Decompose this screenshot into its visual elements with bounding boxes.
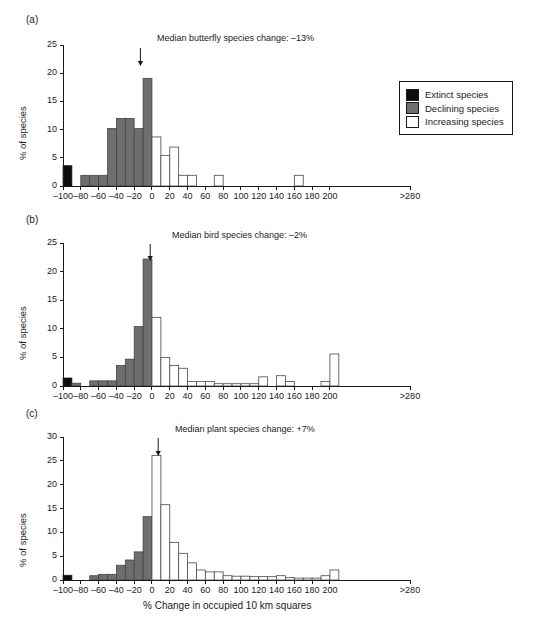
histogram-bar: [81, 175, 90, 186]
histogram-bar: [330, 354, 339, 386]
y-tick-label: 5: [35, 351, 57, 361]
x-tick-label: 200: [310, 585, 350, 595]
histogram-bar: [63, 166, 72, 186]
legend-swatch-extinct-icon: [406, 89, 419, 101]
histogram-bar: [152, 137, 161, 186]
legend-swatch-declining-icon: [406, 102, 419, 114]
histogram-bar: [63, 575, 72, 580]
histogram-bar: [294, 175, 303, 186]
y-tick-label: 0: [35, 574, 57, 584]
legend-item-declining: Declining species: [406, 102, 504, 114]
histogram-bar: [152, 456, 161, 580]
histogram-bar: [63, 378, 72, 386]
y-tick-label: 25: [35, 237, 57, 247]
histogram-bar: [143, 78, 152, 186]
histogram-bar: [205, 381, 214, 386]
y-tick-label: 15: [35, 294, 57, 304]
legend-swatch-increasing-icon: [406, 116, 419, 128]
histogram-bar: [285, 381, 294, 386]
histogram-bar: [259, 377, 268, 386]
histogram-bar: [134, 552, 143, 580]
histogram-bar: [107, 574, 116, 580]
panel-c: (c) Median plant species change: +7% % o…: [0, 404, 554, 626]
histogram-bar: [205, 572, 214, 580]
panel-b: (b) Median bird species change: –2% % of…: [0, 208, 554, 404]
histogram-bar: [116, 565, 125, 580]
histogram-bar: [134, 128, 143, 186]
median-arrow-head-icon: [138, 61, 143, 66]
histogram-bar: [99, 175, 108, 186]
histogram-bar: [277, 376, 286, 386]
histogram-bar: [196, 570, 205, 580]
y-tick-label: 0: [35, 380, 57, 390]
histogram-bar: [321, 576, 330, 580]
histogram-bar: [134, 327, 143, 386]
histogram-bar: [125, 118, 134, 186]
histogram-bar: [170, 365, 179, 386]
histogram-bar: [259, 577, 268, 580]
y-tick-label: 5: [35, 550, 57, 560]
histogram-bar: [107, 128, 116, 186]
histogram-bar: [90, 175, 99, 186]
histogram-bar: [161, 156, 170, 186]
histogram-bar: [179, 175, 188, 186]
y-tick-label: 20: [35, 266, 57, 276]
histogram-bar: [90, 381, 99, 386]
histogram-bar: [125, 560, 134, 580]
histogram-bar: [116, 118, 125, 186]
histogram-bar: [179, 553, 188, 580]
histogram-bar: [232, 576, 241, 580]
panel-c-plot: 051015202530–100–80–60–40–20020406080100…: [0, 404, 554, 626]
histogram-bar: [321, 381, 330, 386]
y-tick-label: 25: [35, 39, 57, 49]
x-tick-label: >280: [390, 391, 430, 401]
y-tick-label: 5: [35, 152, 57, 162]
histogram-bar: [250, 577, 259, 580]
histogram-bar: [214, 572, 223, 580]
y-tick-label: 10: [35, 124, 57, 134]
histogram-bar: [196, 381, 205, 386]
histogram-bar: [125, 359, 134, 386]
histogram-bar: [223, 576, 232, 580]
x-tick-label: >280: [390, 191, 430, 201]
axis-lines: [63, 243, 410, 386]
x-tick-label: 200: [310, 391, 350, 401]
histogram-bar: [152, 317, 161, 386]
histogram-bar: [143, 517, 152, 580]
histogram-bar: [107, 381, 116, 386]
figure-root: (a) Median butterfly species change: –13…: [0, 0, 554, 626]
histogram-bar: [214, 175, 223, 186]
histogram-bar: [161, 357, 170, 386]
y-tick-label: 10: [35, 526, 57, 536]
histogram-bar: [116, 365, 125, 386]
histogram-bar: [277, 576, 286, 580]
histogram-bar: [330, 570, 339, 580]
x-tick-label: >280: [390, 585, 430, 595]
histogram-bar: [99, 381, 108, 386]
legend: Extinct species Declining species Increa…: [399, 81, 513, 135]
x-tick-label: 200: [310, 191, 350, 201]
legend-item-extinct: Extinct species: [406, 89, 504, 101]
legend-label-declining: Declining species: [425, 103, 499, 114]
histogram-bar: [143, 259, 152, 386]
histogram-bar: [268, 577, 277, 580]
histogram-bar: [188, 381, 197, 386]
histogram-bar: [170, 542, 179, 580]
y-tick-label: 25: [35, 455, 57, 465]
panel-b-plot: 0510152025–100–80–60–40–2002040608010012…: [0, 208, 554, 404]
y-tick-label: 20: [35, 479, 57, 489]
histogram-bar: [188, 175, 197, 186]
y-tick-label: 30: [35, 431, 57, 441]
histogram-bar: [170, 147, 179, 186]
histogram-bar: [188, 563, 197, 580]
legend-label-increasing: Increasing species: [425, 116, 504, 127]
y-tick-label: 0: [35, 180, 57, 190]
histogram-bar: [179, 368, 188, 386]
y-tick-label: 15: [35, 95, 57, 105]
histogram-bar: [99, 574, 108, 580]
histogram-bar: [90, 576, 99, 580]
y-tick-label: 20: [35, 67, 57, 77]
histogram-bar: [241, 576, 250, 580]
legend-item-increasing: Increasing species: [406, 116, 504, 128]
axis-lines: [63, 437, 410, 580]
